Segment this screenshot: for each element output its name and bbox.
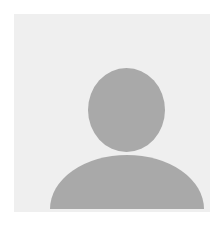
- avatar-shoulders-icon: [50, 155, 204, 209]
- avatar-head-icon: [88, 68, 165, 152]
- avatar-placeholder: [14, 14, 210, 212]
